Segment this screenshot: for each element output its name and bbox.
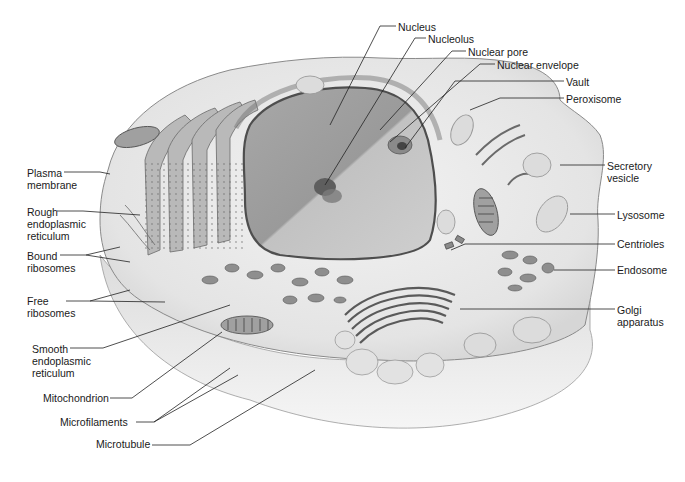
label-bound-ribosomes: Bound ribosomes — [27, 250, 75, 274]
label-plasma-membrane: Plasma membrane — [27, 167, 77, 191]
label-lysosome: Lysosome — [617, 209, 664, 221]
vault-shape — [388, 136, 412, 154]
label-rough-er: Rough endoplasmic reticulum — [27, 206, 86, 242]
label-microfilaments: Microfilaments — [60, 416, 128, 428]
label-golgi-apparatus: Golgi apparatus — [617, 304, 664, 328]
label-free-ribosomes: Free ribosomes — [27, 295, 75, 319]
label-vault: Vault — [566, 76, 589, 88]
label-smooth-er: Smooth endoplasmic reticulum — [32, 343, 91, 379]
label-mitochondrion: Mitochondrion — [43, 392, 109, 404]
cell-diagram — [0, 0, 685, 482]
secretory-vesicle-shape — [523, 153, 551, 177]
label-endosome: Endosome — [617, 264, 667, 276]
label-nucleus: Nucleus — [398, 21, 436, 33]
label-nuclear-pore: Nuclear pore — [468, 46, 528, 58]
label-centrioles: Centrioles — [617, 238, 664, 250]
label-secretory-vesicle: Secretory vesicle — [607, 160, 652, 184]
label-nucleolus: Nucleolus — [428, 33, 474, 45]
label-peroxisome: Peroxisome — [566, 93, 621, 105]
label-microtubule: Microtubule — [96, 438, 150, 450]
label-nuclear-envelope: Nuclear envelope — [497, 59, 579, 71]
